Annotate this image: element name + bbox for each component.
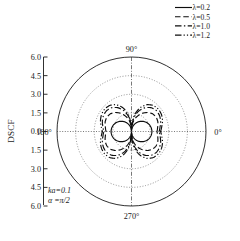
radial-tick-label: 1.5 bbox=[31, 146, 41, 155]
polar-chart: 6.04.53.01.50.01.53.04.56.0 DSCF 0°90°18… bbox=[0, 0, 240, 241]
radial-tick-label: 3.0 bbox=[31, 165, 41, 174]
legend-label-2: λ=0.5 bbox=[193, 13, 211, 22]
angle-label-270: 270° bbox=[124, 212, 140, 221]
polar-grid bbox=[57, 57, 206, 206]
legend-label-4: λ=1.2 bbox=[193, 31, 211, 40]
radial-tick-label: 3.0 bbox=[31, 90, 41, 99]
radial-tick-label: 6.0 bbox=[31, 53, 41, 62]
radial-tick-label: 1.5 bbox=[31, 109, 41, 118]
legend: λ=0.2λ=0.5λ=1.0λ=1.2 bbox=[175, 3, 210, 40]
angle-label-90: 90° bbox=[126, 45, 137, 54]
radial-tick-label: 4.5 bbox=[31, 183, 41, 192]
axis-title: DSCF bbox=[6, 119, 16, 143]
angle-label-180: 180° bbox=[36, 128, 52, 137]
legend-label-3: λ=1.0 bbox=[193, 22, 211, 31]
legend-label-1: λ=0.2 bbox=[193, 3, 211, 12]
annotation-ka: ka=0.1 bbox=[48, 186, 71, 195]
radial-tick-label: 4.5 bbox=[31, 72, 41, 81]
figure-root: 6.04.53.01.50.01.53.04.56.0 DSCF 0°90°18… bbox=[0, 0, 240, 241]
annotation-block: ka=0.1 α =π/2 bbox=[48, 186, 71, 205]
annotation-alpha: α =π/2 bbox=[48, 196, 70, 205]
angle-label-0: 0° bbox=[214, 128, 221, 137]
radial-tick-label: 6.0 bbox=[31, 202, 41, 211]
